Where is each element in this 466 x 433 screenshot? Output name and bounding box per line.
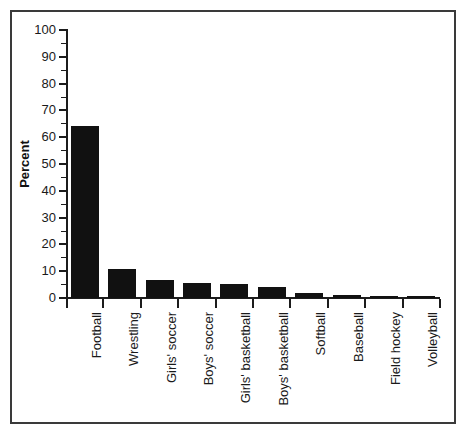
bar: [407, 296, 435, 298]
y-tick-label-70: 70: [22, 103, 56, 116]
x-tick: [66, 299, 68, 308]
x-tick-label: Boys' basketball: [277, 312, 290, 406]
x-tick: [289, 299, 291, 308]
y-tick-label-60: 60: [22, 130, 56, 143]
bar: [108, 269, 136, 298]
x-tick: [140, 299, 142, 308]
x-tick-label: Volleyball: [426, 312, 439, 367]
x-tick-label: Field hockey: [389, 312, 402, 385]
x-tick-label: Wrestling: [127, 312, 140, 366]
y-tick-label-40: 40: [22, 184, 56, 197]
y-tick-label-100: 100: [22, 23, 56, 36]
bar: [370, 296, 398, 298]
x-tick: [102, 299, 104, 308]
y-tick-label-10: 10: [22, 264, 56, 277]
x-tick: [177, 299, 179, 308]
y-tick-label-50: 50: [22, 157, 56, 170]
bar: [71, 126, 99, 298]
bar: [258, 287, 286, 298]
y-tick-label-90: 90: [22, 50, 56, 63]
plot-area: [66, 30, 440, 298]
x-tick-label: Girls' soccer: [165, 312, 178, 383]
bar: [146, 280, 174, 298]
x-tick: [402, 299, 404, 308]
y-tick-label-0: 0: [22, 291, 56, 304]
y-tick-label-30: 30: [22, 211, 56, 224]
x-tick-label: Baseball: [352, 312, 365, 362]
bar: [220, 284, 248, 298]
y-tick-label-80: 80: [22, 77, 56, 90]
x-tick-label: Girls' basketball: [239, 312, 252, 403]
bar: [295, 293, 323, 298]
x-tick-label: Softball: [314, 312, 327, 355]
bar: [183, 283, 211, 298]
x-tick: [252, 299, 254, 308]
bar: [333, 295, 361, 298]
x-tick: [439, 299, 441, 308]
x-tick: [215, 299, 217, 308]
y-tick-label-20: 20: [22, 237, 56, 250]
x-tick: [364, 299, 366, 308]
x-tick-label: Football: [90, 312, 103, 358]
figure: Percent 0102030405060708090100 FootballW…: [0, 0, 466, 433]
x-tick-label: Boys' soccer: [202, 312, 215, 385]
x-tick: [327, 299, 329, 308]
